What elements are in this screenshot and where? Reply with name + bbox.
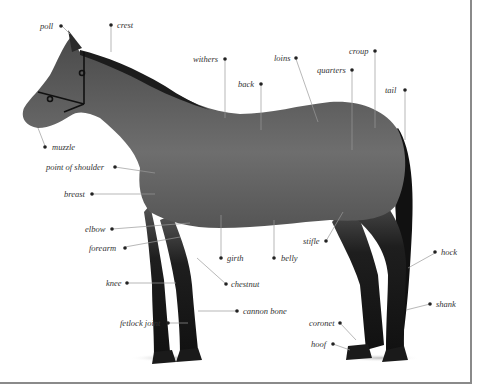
label-shank: shank [436,299,456,309]
hind-hoof-near [382,346,408,362]
label-breast: breast [64,189,85,199]
label-hock: hock [441,247,457,257]
label-point-of-shoulder: point of shoulder [46,162,104,172]
label-back: back [238,79,254,89]
label-girth: girth [227,253,244,263]
label-fetlock-joint: fetlock joint [120,318,160,328]
label-belly: belly [281,253,298,263]
label-loins: loins [274,53,291,63]
label-muzzle: muzzle [52,142,75,152]
label-withers: withers [193,54,218,64]
label-croup: croup [349,46,369,56]
label-hoof: hoof [311,339,326,349]
label-chestnut: chestnut [231,279,259,289]
front-hoof-far [152,350,176,364]
label-forearm: forearm [89,243,116,253]
label-cannon-bone: cannon bone [243,306,287,316]
label-poll: poll [40,21,53,31]
label-stifle: stifle [303,236,320,246]
label-coronet: coronet [309,318,335,328]
label-tail: tail [385,85,396,95]
label-knee: knee [106,278,122,288]
hind-hoof-far [346,344,372,360]
label-quarters: quarters [317,65,346,75]
horse-body [23,38,406,228]
label-crest: crest [117,20,133,30]
front-hoof-near [176,348,202,362]
label-elbow: elbow [85,224,105,234]
